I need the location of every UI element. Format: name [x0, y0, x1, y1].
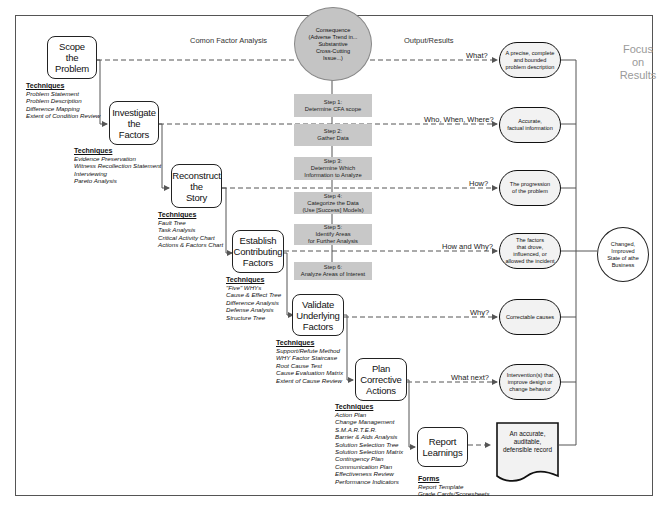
technique-item: Barrier & Aids Analysis: [335, 433, 403, 440]
techniques-heading: Techniques: [26, 82, 100, 90]
question-how: How?: [469, 179, 488, 188]
technique-item: Action Plan: [335, 411, 403, 418]
phase-label: Validate Underlying Factors: [296, 299, 339, 332]
technique-item: Witness Recollection Statement: [74, 162, 161, 169]
form-item: Report Template: [418, 483, 490, 490]
question-who-when-where: Who, When, Where?: [424, 115, 494, 124]
techniques-heading: Techniques: [335, 403, 403, 411]
technique-item: Support/Refute Method: [276, 347, 343, 354]
technique-item: Difference Analysis: [226, 299, 281, 306]
technique-item: Pareto Analysis: [74, 177, 161, 184]
output-text: The factors that drove, influenced, or a…: [505, 237, 554, 265]
techniques-heading: Techniques: [226, 276, 281, 284]
phase-label: Scope the Problem: [55, 41, 89, 74]
phase-validate-underlying-factors[interactable]: Validate Underlying Factors: [292, 294, 344, 336]
phase-report-learnings[interactable]: Report Learnings: [417, 427, 468, 467]
technique-item: Performance Indicators: [335, 478, 403, 485]
output-text: Intervention(s) that improve design or c…: [507, 372, 554, 393]
technique-item: Problem Statement: [26, 90, 100, 97]
phase-label: Reconstruct the Story: [172, 170, 221, 203]
step-3-text: Step 3: Determine Which Information to A…: [304, 158, 361, 179]
technique-item: S.M.A.R.T.E.R.: [335, 426, 403, 433]
technique-item: WHY Factor Staircase: [276, 354, 343, 361]
techniques-plan: Techniques Action Plan Change Management…: [335, 403, 403, 485]
phase-label: Plan Corrective Actions: [360, 363, 401, 396]
phase-label: Report Learnings: [423, 436, 463, 458]
question-what-next: What next?: [451, 373, 489, 382]
technique-item: Difference Mapping: [26, 105, 100, 112]
phase-scope-problem[interactable]: Scope the Problem: [47, 36, 97, 79]
phase-investigate-factors[interactable]: Investigate the Factors: [109, 101, 159, 145]
techniques-reconstruct: Techniques Fault Tree Task Analysis Crit…: [158, 211, 223, 249]
phase-plan-corrective-actions[interactable]: Plan Corrective Actions: [355, 358, 407, 401]
techniques-heading: Techniques: [158, 211, 223, 219]
output-problem-progression: The progression of the problem: [499, 170, 561, 206]
technique-item: Actions & Factors Chart: [158, 241, 223, 248]
phase-label: Establish Contributing Factors: [234, 235, 283, 268]
techniques-validate: Techniques Support/Refute Method WHY Fac…: [276, 339, 343, 384]
final-result-text: Changed, Improved State of athe Business: [607, 241, 639, 269]
final-result-circle: Changed, Improved State of athe Business: [597, 227, 649, 282]
technique-item: Problem Description: [26, 97, 100, 104]
phase-label: Investigate the Factors: [112, 107, 156, 140]
technique-item: Root Cause Test: [276, 362, 343, 369]
technique-item: Structure Tree: [226, 314, 281, 321]
step-5-text: Step 5: Identify Areas for Further Analy…: [308, 224, 358, 245]
output-contributing-factors: The factors that drove, influenced, or a…: [499, 233, 561, 269]
focus-on-results-label: Focus on Results: [618, 43, 658, 82]
technique-item: Effectiveness Review: [335, 470, 403, 477]
technique-item: Contingency Plan: [335, 455, 403, 462]
consequence-text: Consequence (Adverse Trend in... Substan…: [309, 27, 358, 62]
techniques-scope: Techniques Problem Statement Problem Des…: [26, 82, 100, 120]
step-4-text: Step 4: Categorize the Data (Use [Succes…: [302, 193, 363, 214]
output-header: Output/Results: [404, 36, 454, 45]
step-2: Step 2: Gather Data: [294, 124, 372, 146]
technique-item: Task Analysis: [158, 226, 223, 233]
output-correctable-causes: Correctable causes: [499, 299, 561, 335]
technique-item: Fault Tree: [158, 219, 223, 226]
output-text: A precise, complete and bounded problem …: [506, 50, 555, 71]
question-what: What?: [466, 51, 488, 60]
technique-item: Change Management: [335, 418, 403, 425]
output-defensible-record: An accurate, auditable, defensible recor…: [497, 430, 558, 454]
techniques-establish: Techniques "Five" WHYs Cause & Effect Tr…: [226, 276, 281, 321]
phase-reconstruct-story[interactable]: Reconstruct the Story: [171, 164, 222, 208]
technique-item: "Five" WHYs: [226, 284, 281, 291]
consequence-circle: Consequence (Adverse Trend in... Substan…: [294, 7, 372, 81]
output-text: Correctable causes: [506, 314, 554, 321]
technique-item: Solution Selection Matrix: [335, 448, 403, 455]
forms-report: Forms Report Template Grade Cards/Scores…: [418, 475, 490, 498]
technique-item: Cause & Effect Tree: [226, 291, 281, 298]
technique-item: Interviewing: [74, 170, 161, 177]
techniques-heading: Techniques: [276, 339, 343, 347]
technique-item: Critical Activity Chart: [158, 234, 223, 241]
step-1-text: Step 1: Determine CFA scope: [305, 99, 361, 113]
step-1: Step 1: Determine CFA scope: [294, 94, 372, 117]
technique-item: Extent of Condition Review: [26, 112, 100, 119]
techniques-investigate: Techniques Evidence Preservation Witness…: [74, 147, 161, 185]
step-3: Step 3: Determine Which Information to A…: [294, 157, 372, 180]
output-text: Accurate, factual information: [507, 118, 553, 132]
step-2-text: Step 2: Gather Data: [317, 128, 349, 142]
step-5: Step 5: Identify Areas for Further Analy…: [294, 224, 372, 245]
forms-heading: Forms: [418, 475, 490, 483]
techniques-heading: Techniques: [74, 147, 161, 155]
technique-item: Solution Selection Tree: [335, 441, 403, 448]
output-factual-information: Accurate, factual information: [499, 107, 561, 143]
output-text: The progression of the problem: [510, 181, 550, 195]
phase-establish-contributing-factors[interactable]: Establish Contributing Factors: [232, 230, 284, 273]
technique-item: Evidence Preservation: [74, 155, 161, 162]
question-why: Why?: [470, 308, 489, 317]
output-problem-description: A precise, complete and bounded problem …: [499, 42, 561, 78]
technique-item: Cause Evaluation Matrix: [276, 369, 343, 376]
question-how-and-why: How and Why?: [442, 242, 493, 251]
step-6-text: Step 6: Analyze Areas of Interest: [301, 264, 365, 278]
analysis-header: Comon Factor Analysis: [190, 36, 267, 45]
form-item: Grade Cards/Scoresheets: [418, 490, 490, 497]
technique-item: Extent of Cause Review: [276, 377, 343, 384]
technique-item: Communication Plan: [335, 463, 403, 470]
technique-item: Defense Analysis: [226, 306, 281, 313]
output-interventions: Intervention(s) that improve design or c…: [499, 364, 561, 400]
step-6: Step 6: Analyze Areas of Interest: [294, 262, 372, 280]
step-4: Step 4: Categorize the Data (Use [Succes…: [294, 192, 372, 214]
